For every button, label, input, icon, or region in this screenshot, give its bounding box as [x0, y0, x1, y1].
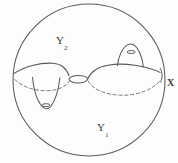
horizon-curve-left-solid: [14, 63, 69, 76]
figure-canvas: [0, 0, 178, 163]
label-lower-region: Y1: [97, 117, 108, 137]
label-upper-region-base: Y: [56, 34, 64, 46]
dashed-back-edge-right: [88, 80, 160, 96]
pinch-neck-lens-lower: [69, 79, 88, 83]
topology-figure: Y2 Y1 X: [0, 0, 178, 163]
right-dome-top-mark: [127, 51, 135, 54]
x-boundary-tick: [160, 68, 162, 82]
label-outer-space: X: [167, 72, 174, 90]
outer-circle-boundary: [13, 4, 165, 156]
dashed-back-edge-left: [15, 80, 69, 91]
pinch-neck-lens-upper: [69, 75, 88, 79]
horizon-curve-right-solid: [88, 64, 161, 79]
label-lower-region-base: Y: [97, 121, 105, 133]
left-funnel-bottom-mark: [42, 104, 50, 107]
label-outer-space-base: X: [167, 77, 174, 88]
label-lower-region-sub: 1: [105, 131, 109, 139]
label-upper-region-sub: 2: [64, 44, 68, 52]
label-upper-region: Y2: [56, 30, 67, 50]
